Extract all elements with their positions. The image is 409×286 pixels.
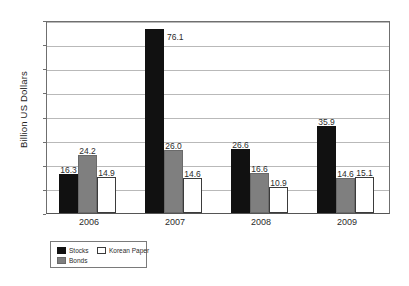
legend-entry-stocks: Stocks [57, 247, 89, 254]
chart-legend: StocksBondsKorean Paper [50, 241, 147, 268]
bar-2007-bonds [164, 150, 183, 213]
bar-value-label: 24.2 [79, 146, 96, 156]
bar-value-label: 14.6 [337, 169, 354, 179]
legend-label: Stocks [69, 247, 89, 254]
bar-2006-bonds [78, 155, 97, 213]
x-axis-tick-label-2009: 2009 [304, 217, 390, 227]
gridline [47, 22, 389, 23]
bar-chart-figure: Billion US Dollars 01020304050607080 200… [0, 0, 409, 286]
gridline [47, 142, 389, 143]
gridline [47, 118, 389, 119]
bar-2007-korean [183, 178, 202, 213]
legend-label: Korean Paper [109, 247, 149, 254]
x-axis-tick-label-2008: 2008 [218, 217, 304, 227]
bar-2009-korean [355, 177, 374, 213]
legend-swatch-icon [57, 257, 66, 264]
legend-swatch-icon [97, 247, 106, 254]
gridline [47, 46, 389, 47]
bar-2008-bonds [250, 173, 269, 213]
bar-value-label: 16.6 [251, 164, 268, 174]
bar-value-label: 15.1 [356, 168, 373, 178]
legend-label: Bonds [69, 257, 87, 264]
bar-2008-stocks [231, 149, 250, 213]
bar-2006-stocks [59, 174, 78, 213]
bar-2007-stocks [145, 29, 164, 213]
bar-2009-bonds [336, 178, 355, 213]
bar-value-label: 35.9 [318, 117, 335, 127]
legend-entry-korean: Korean Paper [97, 247, 149, 254]
x-axis-tick-label-2007: 2007 [132, 217, 218, 227]
y-axis-title: Billion US Dollars [18, 45, 29, 175]
legend-entry-bonds: Bonds [57, 257, 87, 264]
gridline [47, 94, 389, 95]
bar-value-label: 14.9 [98, 168, 115, 178]
bar-value-label: 26.6 [232, 140, 249, 150]
plot-area: 16.324.214.976.126.014.626.616.610.935.9… [46, 21, 390, 214]
bar-value-label: 14.6 [184, 169, 201, 179]
bar-2006-korean [97, 177, 116, 213]
bar-value-label: 26.0 [165, 141, 182, 151]
gridline [47, 70, 389, 71]
bar-value-label: 10.9 [270, 178, 287, 188]
x-axis-tick-label-2006: 2006 [46, 217, 132, 227]
bar-2008-korean [269, 187, 288, 213]
bar-value-label: 76.1 [167, 32, 184, 42]
bar-2009-stocks [317, 126, 336, 213]
bar-value-label: 16.3 [60, 165, 77, 175]
y-axis-tick-mark [43, 214, 46, 215]
legend-swatch-icon [57, 247, 66, 254]
